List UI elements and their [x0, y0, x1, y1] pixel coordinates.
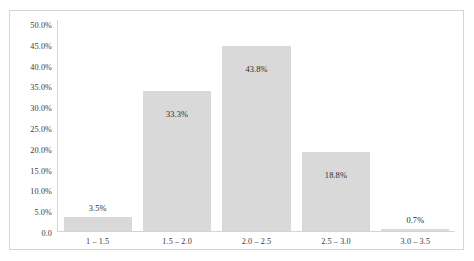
y-axis-tick-label: 10.0% — [30, 188, 52, 196]
x-axis-tick-label: 1.5 – 2.0 — [137, 235, 216, 249]
chart-frame: 50.0% 45.0% 40.0% 35.0% 30.0% 25.0% 20.0… — [9, 10, 464, 250]
bar-value-label: 0.7% — [381, 216, 449, 225]
bar-slot: 3.5% — [58, 20, 137, 232]
bar-value-label: 3.5% — [64, 204, 132, 213]
bar[interactable]: 18.8% — [302, 152, 370, 232]
y-axis-tick-label: 0.0 — [41, 230, 52, 238]
bar-slot: 43.8% — [217, 20, 296, 232]
x-axis-tick-label: 2.5 – 3.0 — [296, 235, 375, 249]
bar[interactable]: 43.8% — [222, 46, 290, 232]
y-axis: 50.0% 45.0% 40.0% 35.0% 30.0% 25.0% 20.0… — [10, 22, 56, 230]
x-axis: 1 – 1.5 1.5 – 2.0 2.0 – 2.5 2.5 – 3.0 3.… — [58, 235, 455, 249]
y-axis-tick-label: 15.0% — [30, 168, 52, 176]
bar-value-label: 18.8% — [302, 171, 370, 180]
y-axis-tick-label: 50.0% — [30, 22, 52, 30]
y-axis-tick-label: 45.0% — [30, 43, 52, 51]
y-axis-tick-label: 25.0% — [30, 126, 52, 134]
bar[interactable]: 33.3% — [143, 91, 211, 232]
y-axis-tick-label: 30.0% — [30, 105, 52, 113]
chart-plot-wrapper: 50.0% 45.0% 40.0% 35.0% 30.0% 25.0% 20.0… — [10, 11, 463, 249]
x-axis-tick-label: 1 – 1.5 — [58, 235, 137, 249]
y-axis-tick-label: 35.0% — [30, 84, 52, 92]
y-axis-tick-label: 40.0% — [30, 64, 52, 72]
bar-series: 3.5% 33.3% 43.8% 18.8% — [58, 20, 455, 232]
bar-slot: 18.8% — [296, 20, 375, 232]
y-axis-tick-label: 5.0% — [35, 209, 52, 217]
x-axis-tick-label: 2.0 – 2.5 — [217, 235, 296, 249]
bar[interactable]: 3.5% — [64, 217, 132, 232]
bar-value-label: 33.3% — [143, 110, 211, 119]
bar-slot: 33.3% — [137, 20, 216, 232]
x-axis-tick-label: 3.0 – 3.5 — [376, 235, 455, 249]
bar-value-label: 43.8% — [222, 65, 290, 74]
x-axis-line — [57, 231, 455, 232]
bar-slot: 0.7% — [376, 20, 455, 232]
plot-area: 3.5% 33.3% 43.8% 18.8% — [58, 20, 455, 232]
y-axis-tick-label: 20.0% — [30, 147, 52, 155]
